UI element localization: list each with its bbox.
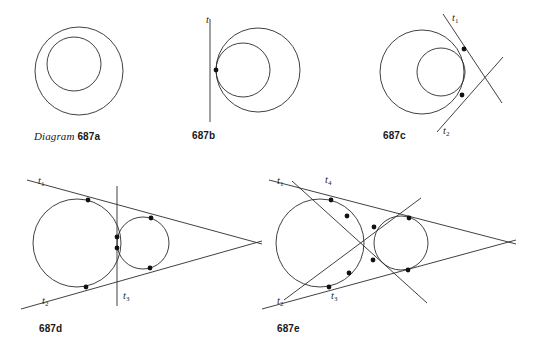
tangent-label-t2-687e: t2 <box>277 296 284 308</box>
tangency-point-lower-687c <box>460 93 465 98</box>
tangency-point-inner-a-687e <box>345 214 350 219</box>
tangency-point-small-lower-687e <box>406 268 411 273</box>
caption-number-687a: 687a <box>77 131 100 142</box>
tangent-label-t1-687d-sub: 1 <box>41 180 45 188</box>
caption-687c: 687c <box>383 131 406 141</box>
tangent-label-t3-687d: t3 <box>123 291 130 303</box>
tangency-point-inner-b-687e <box>347 271 352 276</box>
panel-687d-graphic <box>21 180 262 309</box>
figure-root: Diagram687a t 687b t1 t2 687c t1 t2 t3 6… <box>0 0 536 348</box>
circle-big-687d <box>33 199 121 287</box>
tangency-point-small-upper-687d <box>149 216 154 221</box>
circle-small-687d <box>117 217 169 269</box>
tangent-label-t1-687c: t1 <box>452 13 459 25</box>
tangent-label-t1-687e: t1 <box>277 176 284 188</box>
tangent-line-t4-687e <box>292 181 427 303</box>
tangency-point-inner-d-687e <box>371 258 376 263</box>
tangent-label-t2-687d: t2 <box>42 296 49 308</box>
circle-outer-687b <box>216 28 300 112</box>
circle-inner-687c <box>417 48 465 96</box>
tangent-label-t-687b-text: t <box>206 14 209 25</box>
tangent-label-t1-687c-sub: 1 <box>455 17 459 25</box>
tangent-label-t1-687e-sub: 1 <box>280 180 284 188</box>
circle-inner-687a <box>47 37 101 91</box>
tangency-point-inner-c-687e <box>372 225 377 230</box>
panel-687c-graphic <box>380 14 503 132</box>
panel-687b-graphic <box>210 19 300 122</box>
caption-687d: 687d <box>39 324 62 334</box>
tangency-point-big-upper-687e <box>329 198 334 203</box>
circle-inner-687b <box>216 43 270 97</box>
caption-687e: 687e <box>277 324 300 334</box>
tangent-line-t2-687d <box>21 241 262 309</box>
tangent-line-t1-687d <box>27 180 262 244</box>
panel-687a-graphic <box>35 27 123 115</box>
tangent-line-t1-687c <box>443 14 502 103</box>
tangent-label-t4-687e: t4 <box>325 175 332 187</box>
tangent-label-t3-687e: t3 <box>331 291 338 303</box>
tangency-point-small-lower-687d <box>148 266 153 271</box>
tangency-point-inner-b-687d <box>115 246 120 251</box>
tangency-point-small-upper-687e <box>407 216 412 221</box>
diagram-canvas <box>0 0 536 348</box>
tangent-label-t2-687c-sub: 2 <box>446 130 450 138</box>
tangent-label-t1-687d: t1 <box>38 176 45 188</box>
tangent-line-t2-687c <box>437 57 503 132</box>
tangent-label-t4-687e-sub: 4 <box>328 179 332 187</box>
tangent-label-t3-687e-sub: 3 <box>334 295 338 303</box>
caption-687a: Diagram687a <box>34 131 100 142</box>
tangent-label-t2-687e-sub: 2 <box>280 300 284 308</box>
tangent-line-t2-687e <box>262 240 516 309</box>
caption-word-diagram: Diagram <box>34 130 74 142</box>
tangent-line-t1-687e <box>269 180 516 244</box>
tangent-label-t3-687d-sub: 3 <box>126 295 130 303</box>
caption-687b: 687b <box>192 131 215 141</box>
tangent-label-t2-687d-sub: 2 <box>45 300 49 308</box>
tangent-label-t2-687c: t2 <box>443 126 450 138</box>
tangency-point-big-lower-687d <box>84 285 89 290</box>
tangency-point-big-lower-687e <box>327 285 332 290</box>
panel-687e-graphic <box>262 180 516 309</box>
tangency-point-upper-687c <box>462 47 467 52</box>
tangent-label-t-687b: t <box>206 15 209 26</box>
tangency-point-big-upper-687d <box>86 198 91 203</box>
circle-outer-687c <box>380 30 464 114</box>
tangency-point-inner-a-687d <box>115 235 120 240</box>
tangency-point-687b <box>214 68 219 73</box>
